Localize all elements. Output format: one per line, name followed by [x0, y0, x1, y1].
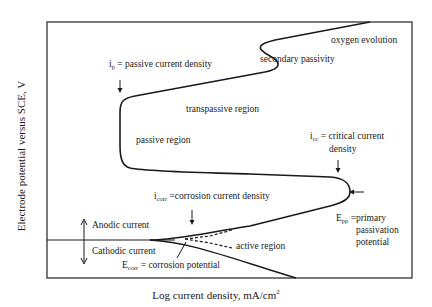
- label-active-region: active region: [236, 241, 285, 252]
- label-icorr: icorr =corrosion current density: [154, 191, 270, 204]
- tafel-extrapolation-anodic: [185, 230, 232, 239]
- epp-arrow-icon: [349, 190, 364, 195]
- icorr-text: =corrosion current density: [167, 191, 270, 201]
- label-anodic-current: Anodic current: [92, 220, 149, 231]
- epp-text: =primary: [348, 213, 386, 223]
- label-passive-region: passive region: [136, 135, 191, 146]
- ecorr-text: = corrosion potential: [138, 260, 220, 270]
- icc-text: = critical current: [318, 131, 384, 141]
- label-epp-line3: potential: [356, 237, 389, 248]
- label-secondary-passivity: secondary passivity: [260, 54, 335, 65]
- ip-text: = passive current density: [115, 59, 212, 69]
- label-transpassive-region: transpassive region: [186, 104, 259, 115]
- label-ip: ip = passive current density: [109, 59, 212, 72]
- ecorr-sub: corr: [128, 264, 138, 271]
- x-axis-label-sup: 2: [276, 288, 280, 296]
- label-icc: icc = critical current: [310, 131, 384, 144]
- double-arrow-icon: [81, 219, 87, 264]
- label-oxygen-evolution: oxygen evolution: [331, 35, 397, 46]
- icorr-sub: corr: [157, 195, 167, 202]
- polarization-diagram: Electrode potential versus SCE, V Log cu…: [0, 0, 432, 307]
- label-cathodic-current: Cathodic current: [92, 246, 156, 257]
- label-icc-line2: density: [329, 144, 356, 155]
- icorr-arrow-icon: [190, 210, 195, 225]
- label-ecorr: Ecorr = corrosion potential: [122, 260, 220, 273]
- ip-arrow-icon: [118, 80, 123, 93]
- label-epp-line2: passivation: [356, 225, 399, 236]
- y-axis-label: Electrode potential versus SCE, V: [15, 71, 27, 241]
- icc-arrow-icon: [336, 160, 341, 173]
- x-axis-label-text: Log current density, mA/cm: [152, 289, 276, 301]
- x-axis-label: Log current density, mA/cm2: [0, 288, 432, 301]
